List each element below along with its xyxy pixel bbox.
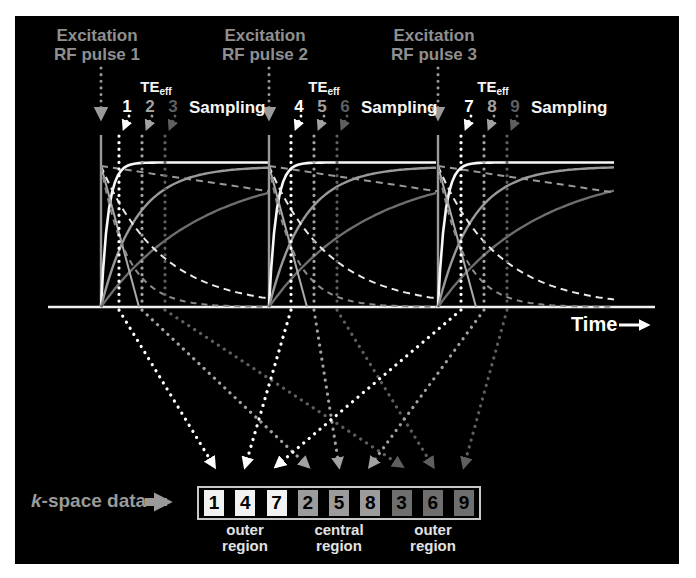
echo-number-6: 6 — [336, 98, 354, 116]
region-line2: region — [388, 538, 478, 554]
excitation-label-2-line1: Excitation — [190, 26, 340, 45]
kspace-label-k: k — [31, 490, 42, 511]
excitation-label-1-line2: RF pulse 1 — [22, 45, 172, 64]
kspace-data-label: k-space data — [31, 490, 146, 512]
region-line1: central — [294, 522, 384, 538]
te-subscript: eff — [159, 86, 171, 97]
region-line2: region — [294, 538, 384, 554]
region-line2: region — [200, 538, 290, 554]
te-eff-label-3: TEeff — [463, 78, 523, 95]
te-main: TE — [477, 78, 496, 95]
kspace-label-rest: -space data — [42, 490, 147, 511]
echo-number-8: 8 — [483, 98, 501, 116]
region-line1: outer — [200, 522, 290, 538]
echo-number-5: 5 — [313, 98, 331, 116]
region-line1: outer — [388, 522, 478, 538]
kspace-strip: 1 4 7 2 5 8 3 6 9 — [197, 486, 481, 520]
excitation-label-2-line2: RF pulse 2 — [190, 45, 340, 64]
region-label-outer-left: outer region — [200, 522, 290, 554]
te-main: TE — [308, 78, 327, 95]
kspace-cell-3: 3 — [392, 490, 412, 516]
te-main: TE — [140, 78, 159, 95]
echo-number-9: 9 — [506, 98, 524, 116]
kspace-cell-5: 5 — [329, 490, 349, 516]
region-label-central: central region — [294, 522, 384, 554]
te-subscript: eff — [327, 86, 339, 97]
echo-number-3: 3 — [164, 98, 182, 116]
excitation-label-3: Excitation RF pulse 3 — [359, 26, 509, 64]
te-eff-label-2: TEeff — [294, 78, 354, 95]
echo-number-4: 4 — [290, 98, 308, 116]
echo-number-2: 2 — [141, 98, 159, 116]
kspace-cell-7: 7 — [267, 490, 287, 516]
excitation-label-3-line2: RF pulse 3 — [359, 45, 509, 64]
excitation-label-2: Excitation RF pulse 2 — [190, 26, 340, 64]
kspace-cell-8: 8 — [360, 490, 380, 516]
kspace-cell-4: 4 — [235, 490, 255, 516]
sampling-label-3: Sampling — [531, 98, 608, 118]
excitation-label-3-line1: Excitation — [359, 26, 509, 45]
te-eff-label-1: TEeff — [126, 78, 186, 95]
excitation-label-1: Excitation RF pulse 1 — [22, 26, 172, 64]
region-label-outer-right: outer region — [388, 522, 478, 554]
te-subscript: eff — [496, 86, 508, 97]
figure-panel: Excitation RF pulse 1 Excitation RF puls… — [15, 16, 679, 564]
sampling-label-2: Sampling — [361, 98, 438, 118]
kspace-cell-9: 9 — [454, 490, 474, 516]
kspace-cell-6: 6 — [423, 490, 443, 516]
echo-number-7: 7 — [460, 98, 478, 116]
time-axis-label: Time — [571, 313, 617, 336]
kspace-cell-2: 2 — [298, 490, 318, 516]
echo-number-1: 1 — [118, 98, 136, 116]
excitation-label-1-line1: Excitation — [22, 26, 172, 45]
kspace-cell-1: 1 — [204, 490, 224, 516]
sampling-label-1: Sampling — [189, 98, 266, 118]
figure-page: Excitation RF pulse 1 Excitation RF puls… — [0, 0, 696, 578]
